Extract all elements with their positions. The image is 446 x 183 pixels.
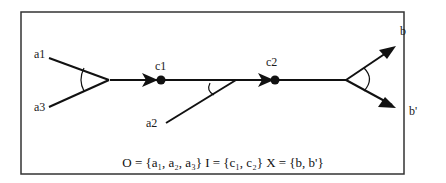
join-a1-a3 bbox=[49, 58, 109, 107]
label-c2: c2 bbox=[266, 55, 277, 70]
join-a2 bbox=[161, 80, 265, 123]
split-b bbox=[275, 49, 392, 105]
label-a2: a2 bbox=[146, 116, 157, 131]
label-a3: a3 bbox=[34, 100, 45, 115]
label-b-prime: b' bbox=[409, 104, 417, 119]
label-c1: c1 bbox=[155, 59, 166, 74]
label-a1: a1 bbox=[34, 47, 45, 62]
label-b: b bbox=[400, 24, 406, 39]
diagram-caption: O = {a₁, a₂, a₃} I = {c₁, c₂} X = {b, b'… bbox=[0, 155, 446, 171]
